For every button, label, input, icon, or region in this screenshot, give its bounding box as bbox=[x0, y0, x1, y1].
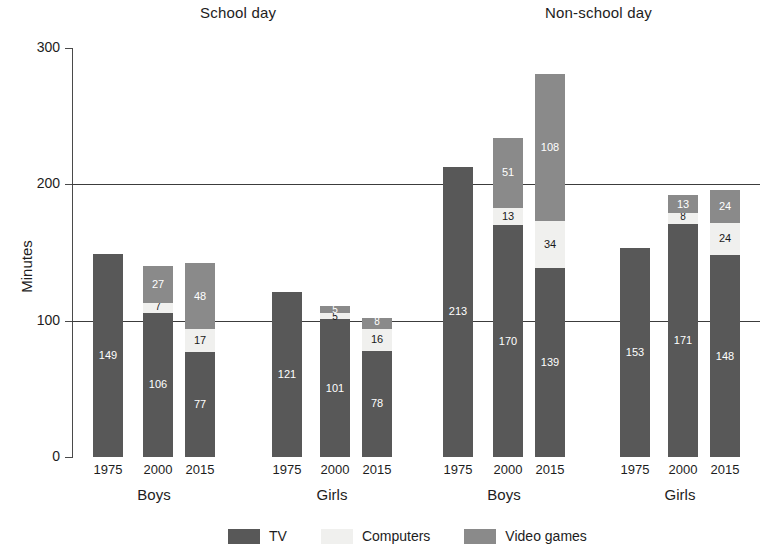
y-tick-200 bbox=[65, 184, 72, 185]
bar-segment-tv: 121 bbox=[272, 292, 302, 457]
bar-value-label: 213 bbox=[449, 306, 467, 317]
bar-school-day-girls-2015[interactable]: 78168 bbox=[362, 318, 392, 457]
x-axis-year-label-2015: 2015 bbox=[702, 462, 748, 477]
bar-value-label: 101 bbox=[326, 383, 344, 394]
bar-value-label: 78 bbox=[371, 398, 383, 409]
bar-segment-video-games: 48 bbox=[185, 263, 215, 328]
x-axis-year-label-1975: 1975 bbox=[264, 462, 310, 477]
bar-value-label: 106 bbox=[149, 379, 167, 390]
y-tick-label-200: 200 bbox=[20, 176, 60, 190]
legend-swatch-tv-icon bbox=[228, 529, 260, 544]
bar-segment-tv: 77 bbox=[185, 352, 215, 457]
bar-value-label: 27 bbox=[152, 279, 164, 290]
bar-segment-tv: 170 bbox=[493, 225, 523, 457]
gridline-100 bbox=[72, 321, 760, 322]
x-axis-year-label-2015: 2015 bbox=[177, 462, 223, 477]
chart-legend: TV Computers Video games bbox=[228, 527, 621, 545]
bar-segment-tv: 148 bbox=[710, 255, 740, 457]
bar-segment-tv: 106 bbox=[143, 313, 173, 458]
chart-canvas: School day Non-school day Minutes 300200… bbox=[0, 0, 760, 553]
bar-segment-video-games: 27 bbox=[143, 266, 173, 303]
bar-school-day-boys-2000[interactable]: 106727 bbox=[143, 266, 173, 457]
x-axis-year-label-2000: 2000 bbox=[485, 462, 531, 477]
bar-non-school-day-boys-2015[interactable]: 13934108 bbox=[535, 74, 565, 457]
bar-value-label: 108 bbox=[541, 142, 559, 153]
legend-swatch-video-games-icon bbox=[464, 529, 496, 544]
bar-non-school-day-boys-2000[interactable]: 1701351 bbox=[493, 138, 523, 457]
bar-value-label: 153 bbox=[626, 347, 644, 358]
bar-non-school-day-girls-2015[interactable]: 1482424 bbox=[710, 190, 740, 457]
bar-segment-video-games: 24 bbox=[710, 190, 740, 223]
x-axis-year-label-2015: 2015 bbox=[527, 462, 573, 477]
x-axis-group-label-boys: Boys bbox=[109, 486, 199, 503]
bar-value-label: 149 bbox=[99, 350, 117, 361]
bar-segment-computers: 5 bbox=[320, 313, 350, 320]
bar-value-label: 16 bbox=[371, 334, 383, 345]
x-axis-year-label-2000: 2000 bbox=[660, 462, 706, 477]
bar-value-label: 24 bbox=[719, 233, 731, 244]
bar-value-label: 7 bbox=[155, 302, 161, 312]
y-axis-title: Minutes bbox=[18, 217, 35, 317]
bar-value-label: 8 bbox=[374, 317, 380, 327]
panel-title-school-day: School day bbox=[200, 4, 276, 21]
bar-segment-video-games: 108 bbox=[535, 74, 565, 221]
bar-value-label: 13 bbox=[677, 199, 689, 210]
bar-non-school-day-boys-1975[interactable]: 213 bbox=[443, 167, 473, 457]
bar-school-day-boys-1975[interactable]: 149 bbox=[93, 254, 123, 457]
gridline-200 bbox=[72, 184, 760, 185]
bar-value-label: 13 bbox=[502, 211, 514, 222]
bar-value-label: 51 bbox=[502, 167, 514, 178]
bar-segment-computers: 17 bbox=[185, 329, 215, 352]
bar-value-label: 170 bbox=[499, 336, 517, 347]
y-tick-100 bbox=[65, 321, 72, 322]
x-axis-year-label-2015: 2015 bbox=[354, 462, 400, 477]
bar-non-school-day-girls-2000[interactable]: 171813 bbox=[668, 195, 698, 457]
legend-label-computers: Computers bbox=[362, 528, 430, 544]
legend-item-tv: TV bbox=[228, 528, 287, 544]
bar-value-label: 34 bbox=[544, 239, 556, 250]
bar-segment-tv: 149 bbox=[93, 254, 123, 457]
bar-segment-video-games: 51 bbox=[493, 138, 523, 208]
bar-segment-tv: 139 bbox=[535, 268, 565, 458]
panel-title-non-school-day: Non-school day bbox=[545, 4, 652, 21]
bar-segment-tv: 213 bbox=[443, 167, 473, 457]
bar-segment-tv: 171 bbox=[668, 224, 698, 457]
bar-value-label: 139 bbox=[541, 357, 559, 368]
bar-segment-tv: 153 bbox=[620, 248, 650, 457]
bar-value-label: 24 bbox=[719, 201, 731, 212]
y-tick-label-300: 300 bbox=[20, 40, 60, 54]
bar-school-day-boys-2015[interactable]: 771748 bbox=[185, 263, 215, 457]
bar-segment-computers: 24 bbox=[710, 223, 740, 256]
y-tick-300 bbox=[65, 48, 72, 49]
x-axis-group-label-girls: Girls bbox=[635, 486, 725, 503]
bar-segment-video-games: 8 bbox=[362, 318, 392, 329]
legend-label-video-games: Video games bbox=[505, 528, 586, 544]
bar-school-day-girls-1975[interactable]: 121 bbox=[272, 292, 302, 457]
y-axis-spine bbox=[72, 48, 73, 458]
bar-value-label: 17 bbox=[194, 335, 206, 346]
bar-segment-computers: 8 bbox=[668, 213, 698, 224]
bar-segment-computers: 7 bbox=[143, 303, 173, 313]
y-tick-label-100: 100 bbox=[20, 313, 60, 327]
bar-value-label: 148 bbox=[716, 351, 734, 362]
bar-value-label: 121 bbox=[278, 369, 296, 380]
legend-label-tv: TV bbox=[269, 528, 287, 544]
legend-item-video-games: Video games bbox=[464, 528, 586, 544]
bar-segment-computers: 13 bbox=[493, 208, 523, 226]
bar-segment-computers: 16 bbox=[362, 329, 392, 351]
x-axis-group-label-boys: Boys bbox=[459, 486, 549, 503]
bar-value-label: 171 bbox=[674, 335, 692, 346]
bar-school-day-girls-2000[interactable]: 10155 bbox=[320, 306, 350, 457]
y-tick-label-0: 0 bbox=[20, 449, 60, 463]
bar-segment-tv: 101 bbox=[320, 319, 350, 457]
bar-non-school-day-girls-1975[interactable]: 153 bbox=[620, 248, 650, 457]
bar-value-label: 8 bbox=[680, 212, 686, 222]
bar-segment-tv: 78 bbox=[362, 351, 392, 457]
legend-item-computers: Computers bbox=[321, 528, 430, 544]
x-axis-year-label-1975: 1975 bbox=[85, 462, 131, 477]
bar-value-label: 77 bbox=[194, 399, 206, 410]
y-tick-0 bbox=[65, 457, 72, 458]
legend-swatch-computers-icon bbox=[321, 529, 353, 544]
bar-segment-computers: 34 bbox=[535, 221, 565, 267]
bar-segment-video-games: 5 bbox=[320, 306, 350, 313]
